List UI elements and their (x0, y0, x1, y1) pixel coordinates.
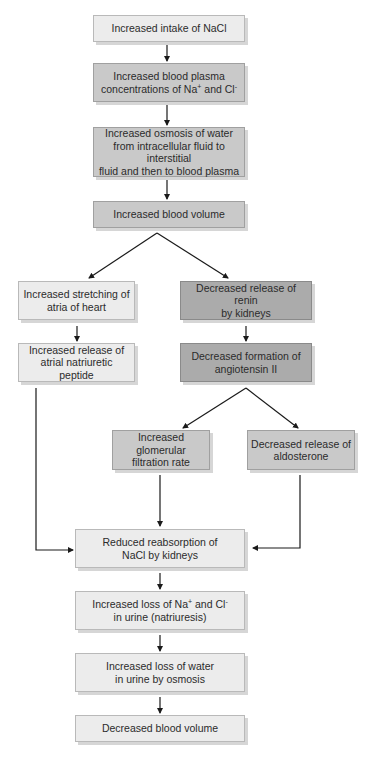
node-text-line: concentrations of Na+ and Cl- (101, 83, 237, 96)
node-increased-nacl-intake: Increased intake of NaCl (93, 15, 245, 42)
node-increased-anp-release: Increased release of atrial natriuretic … (18, 343, 135, 382)
node-text-line: atrial natriuretic peptide (22, 356, 131, 381)
node-text-line: Increased blood plasma (101, 70, 237, 83)
node-increased-blood-volume: Increased blood volume (93, 201, 245, 228)
node-text-line: NaCl by kidneys (103, 549, 218, 562)
node-water-loss-osmosis: Increased loss of water in urine by osmo… (75, 653, 245, 692)
node-decreased-aldosterone: Decreased release of aldosterone (247, 430, 355, 470)
node-increased-atrial-stretching: Increased stretching of atria of heart (18, 281, 135, 320)
node-text-line: Increased loss of Na+ and Cl- (92, 598, 227, 611)
node-text-line: from intracellular fluid to interstitial (97, 140, 241, 165)
node-text-line: Decreased release of renin (184, 282, 308, 307)
node-text-line: fluid and then to blood plasma (97, 165, 241, 178)
node-text-line: Increased loss of water (106, 660, 214, 673)
node-decreased-blood-volume: Decreased blood volume (75, 715, 245, 742)
node-text-line: Decreased formation of (191, 350, 300, 363)
node-decreased-angiotensin-ii: Decreased formation of angiotensin II (180, 343, 312, 382)
node-text: Increased blood volume (113, 208, 225, 221)
node-text-line: Increased stretching of (23, 288, 129, 301)
node-text-line: angiotensin II (191, 363, 300, 376)
node-text-line: Increased glomerular (116, 431, 206, 456)
node-text-line: filtration rate (116, 456, 206, 469)
node-text-line: aldosterone (251, 450, 351, 463)
node-text-line: by kidneys (184, 307, 308, 320)
node-decreased-renin-release: Decreased release of renin by kidneys (180, 281, 312, 320)
node-increased-gfr: Increased glomerular filtration rate (112, 430, 210, 470)
node-text: Increased intake of NaCl (112, 22, 227, 35)
node-text-line: Reduced reabsorption of (103, 536, 218, 549)
node-reduced-nacl-reabsorption: Reduced reabsorption of NaCl by kidneys (75, 529, 245, 568)
node-text-line: in urine by osmosis (106, 673, 214, 686)
node-text-line: in urine (natriuresis) (92, 611, 227, 624)
node-text-line: atria of heart (23, 301, 129, 314)
node-increased-osmosis: Increased osmosis of water from intracel… (93, 127, 245, 177)
node-text-line: Increased osmosis of water (97, 127, 241, 140)
node-natriuresis: Increased loss of Na+ and Cl- in urine (… (75, 591, 245, 630)
node-increased-plasma-na-cl: Increased blood plasma concentrations of… (93, 63, 245, 102)
node-text-line: Increased release of (22, 344, 131, 357)
connector-arrows (0, 0, 368, 764)
node-text: Decreased blood volume (102, 722, 218, 735)
node-text-line: Decreased release of (251, 438, 351, 451)
